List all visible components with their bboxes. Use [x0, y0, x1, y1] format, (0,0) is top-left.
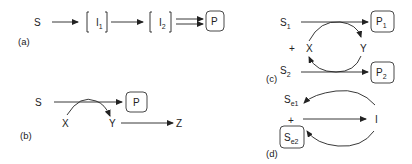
- node-s1: S1: [280, 17, 291, 30]
- bracket-left-i1: [87, 12, 89, 32]
- panel-a: S I1 I2 P (a): [18, 11, 224, 47]
- curved-arrow-i-to-se1: [304, 91, 375, 105]
- panel-label-c: (c): [266, 73, 277, 84]
- node-p: P: [211, 16, 218, 27]
- node-x: X: [306, 43, 313, 54]
- node-s2: S2: [280, 65, 291, 78]
- panel-c: S1 P1 + X Y S2 P2 (c): [266, 11, 394, 84]
- plus-sign: +: [288, 115, 294, 126]
- reaction-schemes-diagram: S I1 I2 P (a) S P X Y Z (b) S1 P1 +: [0, 0, 412, 164]
- panel-d: Se1 + I Se2 (d): [266, 91, 378, 159]
- node-z: Z: [176, 118, 182, 129]
- panel-label-b: (b): [20, 130, 32, 141]
- node-s: S: [35, 97, 42, 108]
- node-x: X: [62, 118, 69, 129]
- bracket-right-i1: [105, 12, 107, 32]
- node-se1: Se1: [284, 94, 299, 107]
- panel-label-d: (d): [266, 148, 278, 159]
- node-y: Y: [360, 43, 367, 54]
- node-p: P: [133, 97, 140, 108]
- bracket-left-i2: [150, 12, 152, 32]
- node-i: I: [375, 114, 378, 125]
- bracket-right-i2: [169, 12, 171, 32]
- node-y: Y: [109, 118, 116, 129]
- node-i1: I1: [96, 17, 103, 30]
- node-s: S: [34, 17, 41, 28]
- panel-label-a: (a): [18, 36, 30, 47]
- curved-arrow-y-to-x: [309, 56, 361, 72]
- curved-arrow-x-to-y: [309, 22, 361, 41]
- curved-arrow-i-to-se2: [307, 131, 374, 146]
- panel-b: S P X Y Z (b): [20, 92, 182, 141]
- plus-sign: +: [289, 43, 295, 54]
- node-i2: I2: [159, 17, 166, 30]
